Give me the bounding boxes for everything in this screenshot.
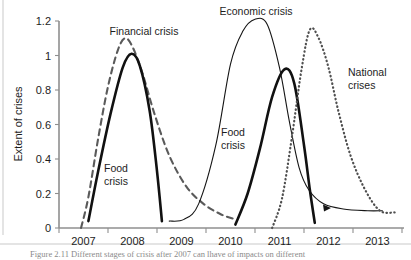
y-tick-label-0.2: 0.2 bbox=[36, 188, 51, 200]
label-food-crisis-left-line1: Food bbox=[104, 162, 128, 174]
x-tick-label-2010: 2010 bbox=[218, 235, 242, 247]
label-national-crises-line2: crises bbox=[348, 79, 375, 91]
label-food-crisis-right-line1: Food bbox=[221, 126, 245, 138]
x-tick-label-2013: 2013 bbox=[365, 235, 389, 247]
y-tick-label-0.8: 0.8 bbox=[36, 84, 51, 96]
label-national-crises-line1: National bbox=[348, 66, 387, 78]
x-tick-label-2008: 2008 bbox=[120, 235, 144, 247]
label-food-crisis-left-line2: crisis bbox=[104, 175, 128, 187]
crisis-stages-line-chart: 1.2 1 0.8 0.6 0.4 0.2 0 Extent of crises… bbox=[0, 0, 411, 260]
y-tick-label-0.4: 0.4 bbox=[36, 153, 51, 165]
x-tick-label-2012: 2012 bbox=[316, 235, 340, 247]
label-food-crisis-right-line2: crisis bbox=[221, 139, 245, 151]
x-tick-label-2009: 2009 bbox=[169, 235, 193, 247]
x-tick-label-2011: 2011 bbox=[268, 235, 292, 247]
label-financial-crisis: Financial crisis bbox=[110, 25, 179, 37]
y-tick-label-1: 1 bbox=[45, 50, 51, 62]
y-tick-label-1.2: 1.2 bbox=[36, 15, 51, 27]
x-tick-label-2007: 2007 bbox=[71, 235, 95, 247]
y-tick-label-0.6: 0.6 bbox=[36, 119, 51, 131]
y-tick-label-0: 0 bbox=[45, 222, 51, 234]
figure-caption: Figure 2.11 Different stages of crisis a… bbox=[30, 249, 306, 259]
y-axis-title: Extent of crises bbox=[12, 86, 24, 162]
chart-background bbox=[0, 0, 411, 260]
figure-container: 1.2 1 0.8 0.6 0.4 0.2 0 Extent of crises… bbox=[0, 0, 411, 260]
label-economic-crisis: Economic crisis bbox=[220, 5, 293, 17]
